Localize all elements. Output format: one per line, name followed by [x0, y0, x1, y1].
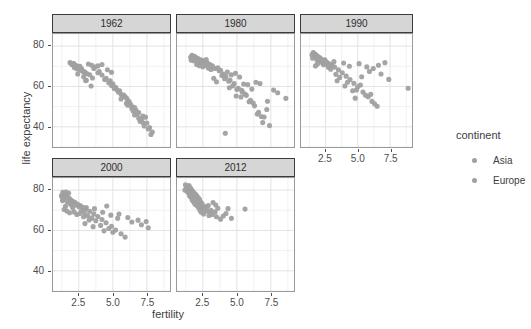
- x-tick-mark: [113, 293, 114, 296]
- legend-dot: [472, 178, 477, 183]
- scatter-points-layer: [177, 34, 294, 147]
- facet-strip-label: 2012: [176, 158, 295, 177]
- x-tick-label: 5.0: [224, 297, 250, 308]
- y-tick-label: 80: [18, 39, 44, 50]
- legend-item-asia[interactable]: Asia: [456, 150, 525, 170]
- x-tick-label: 2.5: [312, 153, 338, 164]
- y-tick-mark: [48, 230, 51, 231]
- y-tick-label: 60: [18, 224, 44, 235]
- x-axis-title: fertility: [52, 308, 284, 320]
- facet-panel-1990: 1990: [300, 14, 413, 148]
- x-tick-label: 7.5: [134, 297, 160, 308]
- y-tick-mark: [48, 271, 51, 272]
- x-tick-mark: [271, 293, 272, 296]
- x-tick-label: 5.0: [345, 153, 371, 164]
- x-tick-mark: [237, 293, 238, 296]
- y-tick-label: 80: [18, 183, 44, 194]
- y-tick-mark: [48, 86, 51, 87]
- facet-panel-2012: 2012: [176, 158, 295, 292]
- facet-strip-label: 2000: [52, 158, 171, 177]
- x-tick-mark: [202, 293, 203, 296]
- legend-dot: [472, 158, 477, 163]
- x-tick-label: 7.5: [378, 153, 404, 164]
- legend-label: Europe: [493, 175, 525, 186]
- facet-strip-label: 1962: [52, 14, 171, 33]
- x-tick-label: 7.5: [258, 297, 284, 308]
- scatter-points-layer: [177, 178, 294, 291]
- x-tick-mark: [325, 149, 326, 152]
- x-tick-label: 5.0: [100, 297, 126, 308]
- scatter-points-layer: [53, 178, 170, 291]
- y-tick-mark: [48, 127, 51, 128]
- legend-title: continent: [456, 129, 525, 141]
- scatter-points-layer: [301, 34, 412, 147]
- facet-panel-1980: 1980: [176, 14, 295, 148]
- plot-panel[interactable]: [52, 33, 171, 148]
- y-tick-label: 40: [18, 121, 44, 132]
- x-tick-label: 2.5: [189, 297, 215, 308]
- y-tick-label: 40: [18, 265, 44, 276]
- x-tick-mark: [358, 149, 359, 152]
- legend-key-icon: [466, 172, 482, 188]
- plot-panel[interactable]: [176, 33, 295, 148]
- y-tick-mark: [48, 189, 51, 190]
- scatter-points-layer: [53, 34, 170, 147]
- plot-panel[interactable]: [300, 33, 413, 148]
- facet-strip-label: 1990: [300, 14, 413, 33]
- plot-panel[interactable]: [52, 177, 171, 292]
- y-tick-label: 60: [18, 80, 44, 91]
- x-tick-mark: [78, 293, 79, 296]
- y-tick-mark: [48, 45, 51, 46]
- legend: continent Asia Europe: [456, 129, 525, 190]
- legend-key-icon: [466, 152, 482, 168]
- plot-panel[interactable]: [176, 177, 295, 292]
- legend-label: Asia: [493, 155, 512, 166]
- facet-strip-label: 1980: [176, 14, 295, 33]
- facet-panel-1962: 1962: [52, 14, 171, 148]
- x-tick-label: 2.5: [65, 297, 91, 308]
- x-tick-mark: [391, 149, 392, 152]
- legend-item-europe[interactable]: Europe: [456, 170, 525, 190]
- facet-panel-2000: 2000: [52, 158, 171, 292]
- facet-scatter-plot: life expectancy fertility 1962 1980 1990…: [0, 0, 531, 329]
- x-tick-mark: [147, 293, 148, 296]
